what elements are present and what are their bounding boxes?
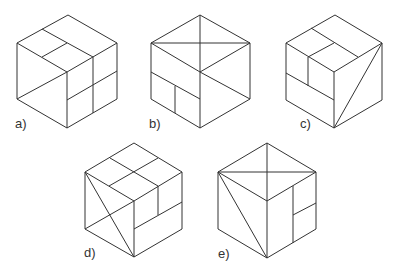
option-label-b: b) [149,117,161,130]
cube-options-figure: a) b) c) d) e) [0,0,397,273]
cube-option-b [151,15,250,128]
option-label-d: d) [84,246,96,259]
cube-option-d [85,143,182,257]
cubes-drawing [0,0,397,273]
cube-option-c [286,15,382,128]
option-label-e: e) [218,247,230,260]
cube-option-e [218,143,316,258]
option-label-c: c) [300,117,311,130]
option-label-a: a) [15,117,27,130]
cube-option-a [17,15,117,128]
